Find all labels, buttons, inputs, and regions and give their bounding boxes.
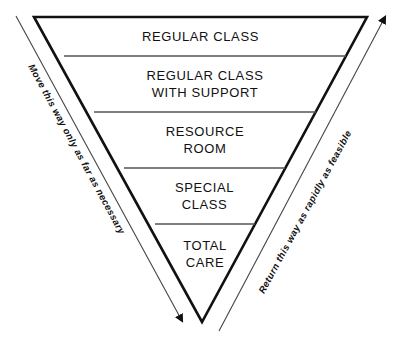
cascade-pyramid-diagram: REGULAR CLASS REGULAR CLASS WITH SUPPORT…: [0, 0, 404, 341]
pyramid-graphic: [0, 0, 404, 341]
